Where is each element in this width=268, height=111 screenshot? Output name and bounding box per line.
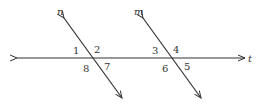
angle-2: 2 xyxy=(94,44,100,55)
angle-7: 7 xyxy=(104,61,110,72)
angle-8: 8 xyxy=(83,63,89,74)
angle-6: 6 xyxy=(162,63,168,74)
parallel-lines-diagram: n m t 1 2 8 7 3 4 6 5 xyxy=(0,0,268,111)
angle-4: 4 xyxy=(173,44,179,55)
angle-5: 5 xyxy=(184,61,190,72)
label-t: t xyxy=(248,53,253,64)
label-n: n xyxy=(57,6,63,17)
diagram-canvas: n m t 1 2 8 7 3 4 6 5 xyxy=(0,0,268,111)
angle-3: 3 xyxy=(152,45,158,56)
label-m: m xyxy=(134,6,143,17)
angle-1: 1 xyxy=(73,45,79,56)
